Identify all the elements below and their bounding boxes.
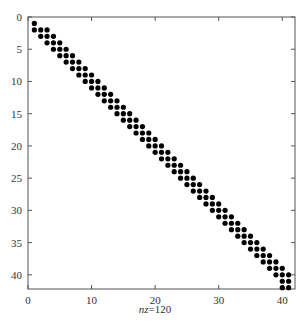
- nonzero-marker: [153, 143, 158, 148]
- nonzero-marker: [64, 53, 69, 58]
- nonzero-marker: [273, 259, 278, 264]
- nonzero-marker: [222, 214, 227, 219]
- nonzero-marker: [32, 27, 37, 32]
- nonzero-marker: [197, 188, 202, 193]
- nonzero-marker: [191, 176, 196, 181]
- nonzero-marker: [184, 182, 189, 187]
- nonzero-marker: [95, 79, 100, 84]
- nonzero-marker: [280, 266, 285, 271]
- xlabel-count: =120: [149, 303, 172, 315]
- nonzero-marker: [178, 163, 183, 168]
- nonzero-marker: [261, 253, 266, 258]
- y-tick-label: 35: [11, 237, 23, 249]
- nonzero-marker: [229, 221, 234, 226]
- nonzero-marker: [95, 85, 100, 90]
- nonzero-marker: [70, 53, 75, 58]
- nonzero-marker: [102, 98, 107, 103]
- nonzero-marker: [235, 221, 240, 226]
- nonzero-marker: [242, 240, 247, 245]
- nonzero-marker: [76, 60, 81, 65]
- nonzero-marker: [210, 201, 215, 206]
- nonzero-marker: [146, 130, 151, 135]
- nonzero-marker: [51, 34, 56, 39]
- nonzero-marker: [114, 98, 119, 103]
- nonzero-marker: [127, 118, 132, 123]
- nonzero-marker: [140, 130, 145, 135]
- nonzero-marker: [254, 253, 259, 258]
- nonzero-marker: [280, 279, 285, 284]
- nonzero-marker: [203, 195, 208, 200]
- sparsity-plot: 010203040 0510152025303540 nz=120: [0, 0, 307, 331]
- nonzero-marker: [261, 259, 266, 264]
- nonzero-marker: [248, 246, 253, 251]
- nonzero-marker: [280, 285, 285, 290]
- nonzero-marker: [286, 285, 291, 290]
- nonzero-marker: [83, 79, 88, 84]
- x-tick-label: 40: [277, 294, 289, 306]
- x-tick-label: 10: [86, 294, 98, 306]
- nonzero-marker: [133, 130, 138, 135]
- nonzero-marker: [210, 195, 215, 200]
- nonzero-marker: [172, 169, 177, 174]
- nonzero-marker: [121, 111, 126, 116]
- nonzero-marker: [235, 227, 240, 232]
- nonzero-marker: [229, 227, 234, 232]
- nonzero-marker: [286, 272, 291, 277]
- nonzero-marker: [286, 279, 291, 284]
- nonzero-marker: [197, 195, 202, 200]
- nonzero-marker: [146, 143, 151, 148]
- nonzero-marker: [248, 234, 253, 239]
- nonzero-marker: [95, 92, 100, 97]
- nonzero-marker: [197, 182, 202, 187]
- nonzero-marker: [216, 208, 221, 213]
- nonzero-marker: [165, 156, 170, 161]
- nonzero-marker: [102, 85, 107, 90]
- nonzero-marker: [133, 124, 138, 129]
- nonzero-marker: [70, 60, 75, 65]
- nonzero-marker: [114, 105, 119, 110]
- nonzero-marker: [57, 40, 62, 45]
- nonzero-marker: [153, 150, 158, 155]
- nonzero-marker: [108, 92, 113, 97]
- nonzero-marker: [140, 137, 145, 142]
- x-tick-label: 30: [213, 294, 225, 306]
- nonzero-marker: [38, 27, 43, 32]
- nonzero-marker: [273, 266, 278, 271]
- nonzero-marker: [222, 221, 227, 226]
- nonzero-marker: [184, 176, 189, 181]
- nonzero-marker: [261, 246, 266, 251]
- nonzero-marker: [44, 27, 49, 32]
- y-tick-label: 20: [11, 140, 23, 152]
- nonzero-marker: [203, 201, 208, 206]
- nonzero-marker: [89, 72, 94, 77]
- nonzero-marker: [51, 40, 56, 45]
- nonzero-marker: [267, 259, 272, 264]
- nonzero-marker: [216, 214, 221, 219]
- nonzero-marker: [172, 163, 177, 168]
- y-tick-label: 15: [11, 108, 23, 120]
- nonzero-marker: [191, 188, 196, 193]
- nonzero-marker: [89, 85, 94, 90]
- nonzero-marker: [203, 188, 208, 193]
- nonzero-marker: [235, 234, 240, 239]
- nonzero-marker: [102, 92, 107, 97]
- nonzero-marker: [159, 143, 164, 148]
- nonzero-marker: [153, 137, 158, 142]
- nonzero-marker: [114, 111, 119, 116]
- nonzero-marker: [216, 201, 221, 206]
- x-tick-label: 0: [25, 294, 31, 306]
- y-tick-label: 0: [17, 11, 23, 23]
- nonzero-marker: [159, 156, 164, 161]
- nonzero-marker: [140, 124, 145, 129]
- nonzero-marker: [165, 163, 170, 168]
- nonzero-marker: [254, 246, 259, 251]
- y-tick-label: 5: [17, 43, 23, 55]
- y-tick-label: 30: [11, 204, 23, 216]
- y-tick-label: 25: [11, 172, 23, 184]
- y-tick-label: 40: [11, 269, 23, 281]
- nonzero-marker: [44, 34, 49, 39]
- nonzero-marker: [83, 72, 88, 77]
- nonzero-marker: [64, 60, 69, 65]
- nonzero-marker: [57, 47, 62, 52]
- nonzero-marker: [267, 266, 272, 271]
